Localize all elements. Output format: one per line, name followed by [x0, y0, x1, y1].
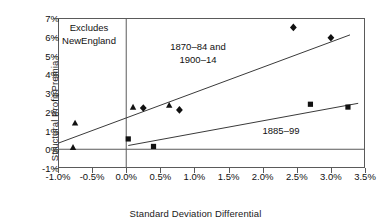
trendline — [128, 103, 358, 145]
data-point-diamond — [327, 34, 334, 42]
data-point-triangle — [70, 144, 76, 150]
data-point-diamond — [176, 106, 183, 114]
data-point-square — [308, 102, 313, 107]
data-point-square — [345, 104, 350, 109]
data-point-diamond — [290, 24, 297, 32]
data-point-square — [151, 144, 156, 149]
data-point-square — [126, 136, 131, 141]
data-point-triangle — [130, 104, 136, 110]
plot-overlay — [0, 0, 391, 221]
data-point-triangle — [72, 120, 78, 126]
chart-container: Structural Profit Premia Standard Deviat… — [0, 0, 391, 221]
trendline — [58, 35, 350, 143]
